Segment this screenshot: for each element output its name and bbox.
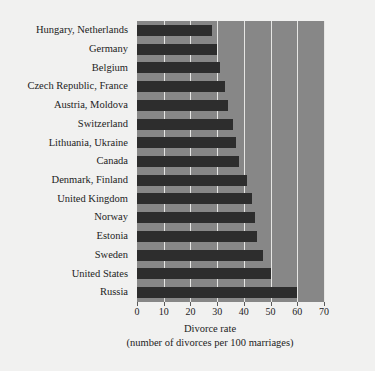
bar	[137, 268, 271, 279]
divorce-rate-bar-chart: Hungary, NetherlandsGermanyBelgiumCzech …	[0, 0, 375, 371]
bar	[137, 175, 247, 186]
bar	[137, 287, 297, 298]
bar	[137, 44, 217, 55]
category-label: United States	[0, 265, 133, 284]
bar	[137, 212, 255, 223]
category-label: Czech Republic, France	[0, 77, 133, 96]
category-label: Sweden	[0, 246, 133, 265]
bar-row	[137, 40, 324, 59]
bar	[137, 156, 239, 167]
x-axis: 010203040506070	[137, 302, 324, 320]
x-axis-title: Divorce rate	[60, 322, 360, 336]
x-tick-label: 0	[135, 306, 140, 317]
bar-row	[137, 115, 324, 134]
x-tick-label: 30	[212, 306, 222, 317]
bar	[137, 119, 233, 130]
x-tick-label: 20	[185, 306, 195, 317]
category-label: Hungary, Netherlands	[0, 21, 133, 40]
x-axis-subtitle: (number of divorces per 100 marriages)	[60, 336, 360, 350]
bar-row	[137, 133, 324, 152]
bar-row	[137, 58, 324, 77]
x-axis-caption: Divorce rate (number of divorces per 100…	[60, 322, 360, 350]
bar-row	[137, 208, 324, 227]
category-label: Denmark, Finland	[0, 171, 133, 190]
category-label: Belgium	[0, 58, 133, 77]
x-tick-label: 70	[319, 306, 329, 317]
bar-row	[137, 171, 324, 190]
bar-row	[137, 283, 324, 302]
category-label: Norway	[0, 208, 133, 227]
x-tick-label: 10	[159, 306, 169, 317]
category-axis-labels: Hungary, NetherlandsGermanyBelgiumCzech …	[0, 21, 133, 302]
bar	[137, 231, 257, 242]
bar	[137, 81, 225, 92]
category-label: Russia	[0, 283, 133, 302]
category-label: Germany	[0, 40, 133, 59]
bar-row	[137, 96, 324, 115]
bar-row	[137, 190, 324, 209]
category-label: United Kingdom	[0, 190, 133, 209]
x-tick-label: 40	[239, 306, 249, 317]
x-tick-label: 60	[292, 306, 302, 317]
category-label: Austria, Moldova	[0, 96, 133, 115]
bar-row	[137, 77, 324, 96]
bar	[137, 62, 220, 73]
bar-row	[137, 246, 324, 265]
category-label: Switzerland	[0, 115, 133, 134]
bar	[137, 193, 252, 204]
category-label: Lithuania, Ukraine	[0, 133, 133, 152]
bar-series	[137, 21, 324, 302]
gridline	[324, 21, 325, 302]
bar-row	[137, 21, 324, 40]
bar	[137, 25, 212, 36]
bar	[137, 100, 228, 111]
bar-row	[137, 265, 324, 284]
plot-area	[137, 21, 324, 302]
bar	[137, 250, 263, 261]
x-tick-label: 50	[266, 306, 276, 317]
bar-row	[137, 152, 324, 171]
category-label: Estonia	[0, 227, 133, 246]
bar-row	[137, 227, 324, 246]
bar	[137, 137, 236, 148]
category-label: Canada	[0, 152, 133, 171]
